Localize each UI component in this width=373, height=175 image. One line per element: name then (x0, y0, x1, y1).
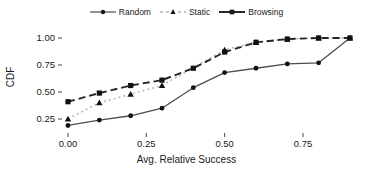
x-tick-label: 0.75 (278, 139, 328, 149)
data-point (285, 62, 290, 67)
data-point (65, 116, 71, 122)
cdf-chart-figure: Random Static Browsing 0.000.250.500.750… (0, 0, 373, 175)
x-tick-label: 0.25 (121, 139, 171, 149)
data-point (254, 66, 259, 71)
data-point (128, 83, 133, 88)
series-line (68, 38, 350, 125)
x-axis-title: Avg. Relative Success (0, 155, 373, 165)
series-static (65, 35, 353, 122)
data-point (222, 70, 227, 75)
data-point (191, 66, 196, 71)
x-tick-label: 0.50 (200, 139, 250, 149)
tick-marks (58, 38, 303, 137)
data-point (160, 106, 165, 111)
plot-area (0, 0, 373, 175)
data-point (96, 100, 102, 106)
data-point (97, 118, 102, 123)
data-point (253, 40, 258, 45)
y-axis-title: CDF (6, 57, 16, 97)
data-point (285, 36, 290, 41)
y-tick-label: 1.00 (0, 33, 55, 43)
data-point (159, 78, 164, 83)
data-point (316, 35, 321, 40)
data-point (65, 99, 70, 104)
data-point (222, 49, 227, 54)
series-line (68, 38, 350, 119)
data-point (191, 85, 196, 90)
data-point (128, 113, 133, 118)
x-tick-label: 0.00 (43, 139, 93, 149)
data-point (66, 123, 71, 128)
data-point (347, 35, 352, 40)
series-browsing (65, 35, 352, 104)
data-point (97, 90, 102, 95)
data-point (316, 60, 321, 65)
series-random (66, 36, 353, 128)
y-tick-label: 0.25 (0, 114, 55, 124)
series-line (68, 38, 350, 102)
data-point (159, 82, 165, 88)
series-layer (65, 35, 353, 128)
